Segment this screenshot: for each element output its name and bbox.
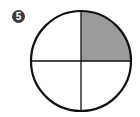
fraction-circle-diagram [0, 0, 140, 117]
